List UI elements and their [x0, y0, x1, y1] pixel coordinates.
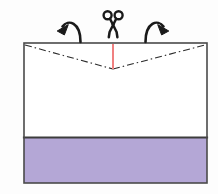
cut-and-fold-diagram: [0, 0, 218, 194]
lower-shaded-band: [24, 137, 207, 183]
scissors-pivot: [112, 23, 115, 26]
right-fold-arrow: [146, 23, 169, 42]
left-fold-arrow: [57, 23, 80, 42]
scissors-icon: [104, 11, 123, 37]
figure-canvas: [0, 0, 218, 194]
